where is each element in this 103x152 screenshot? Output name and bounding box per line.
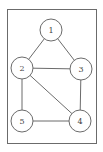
node-label: 4 [77,117,82,126]
edge-2-4 [22,68,80,121]
node-1: 1 [40,19,62,41]
node-3: 3 [70,58,92,80]
node-label: 3 [78,65,83,74]
node-label: 2 [19,64,24,73]
node-label: 5 [19,117,24,126]
nodes: 12345 [11,19,92,132]
graph-diagram: 12345 [0,0,103,152]
node-4: 4 [69,110,91,132]
node-label: 1 [48,26,53,35]
node-2: 2 [11,57,33,79]
node-5: 5 [11,110,33,132]
